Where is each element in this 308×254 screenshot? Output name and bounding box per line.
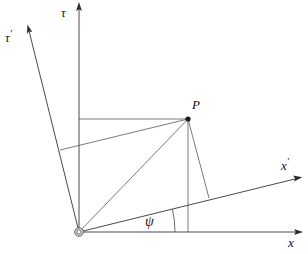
x-prime-mark: ′ [287,156,289,167]
spacetime-diagram: τ τ′ x x′ P ψ [0,0,308,254]
construction-line-radius-op [79,119,188,232]
tau-axis-label: τ [61,6,66,19]
point-p-marker [185,116,190,121]
tau-prime-mark: ′ [10,28,12,39]
construction-line-x-prime-projection [188,119,209,198]
x-prime-axis-arrow-icon [293,176,302,182]
point-p-label: P [192,98,200,111]
diagram-canvas [0,0,308,254]
origin-marker-inner [77,230,81,234]
psi-angle-label: ψ [145,215,154,229]
psi-angle-arc [172,209,175,232]
tau-prime-axis-label: τ′ [5,29,12,44]
x-axis-label: x [288,236,294,249]
x-prime-axis-line [79,179,295,232]
x-prime-axis-label: x′ [281,157,289,172]
tau-prime-axis-line [29,32,79,232]
